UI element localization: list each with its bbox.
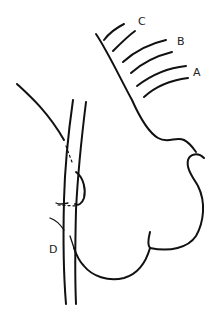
anatomical-line-diagram: C B A D: [0, 0, 224, 319]
label-d: D: [49, 243, 57, 256]
tick-3: [70, 236, 74, 248]
ridge-c-1: [104, 24, 124, 40]
tick-1: [56, 203, 68, 204]
lower-bulge: [74, 232, 150, 279]
label-b: B: [177, 35, 185, 48]
label-a: A: [193, 66, 201, 79]
ridge-a-1: [137, 66, 186, 86]
upper-contour: [96, 34, 196, 152]
left-diagonal: [17, 84, 64, 140]
dashed-mark-2: [58, 205, 76, 206]
tick-2: [50, 218, 64, 230]
s-curve: [150, 154, 204, 249]
ridge-a-2: [144, 78, 188, 97]
ridge-b-1: [123, 40, 166, 62]
ridge-c-2: [113, 31, 135, 51]
label-c: C: [138, 15, 146, 28]
tube-left: [64, 100, 73, 304]
